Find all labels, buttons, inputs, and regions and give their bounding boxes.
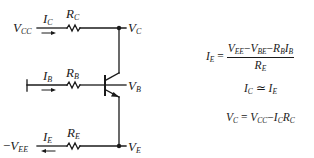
label-ib: IB [43, 69, 52, 86]
resistor-re [67, 143, 80, 149]
equation-ie: IE = VEE−VBE−RBIB RE [206, 42, 294, 73]
arrow-ie-head [41, 149, 46, 153]
equation-ic-approx: IC ≃ IE [244, 81, 277, 96]
node-vc [117, 26, 121, 30]
label-vee: −VEE [3, 139, 28, 156]
label-vc: VC [128, 21, 141, 38]
label-rb: RB [66, 66, 79, 83]
label-vb: VB [128, 79, 141, 96]
denominator: RE [227, 58, 294, 73]
label-ic: IC [43, 12, 53, 29]
node-ve [117, 144, 121, 148]
fraction: VEE−VBE−RBIB RE [227, 42, 294, 73]
arrow-ib-head [51, 88, 56, 92]
label-ve: VE [128, 140, 141, 157]
resistor-rc [67, 25, 80, 31]
arrow-ic-head [51, 31, 56, 35]
label-ie: IE [43, 130, 52, 147]
equation-vc: VC = VCC−ICRC [226, 111, 295, 125]
label-rc: RC [66, 7, 79, 24]
label-re: RE [67, 126, 80, 143]
transistor-collector [106, 73, 119, 80]
numerator: VEE−VBE−RBIB [227, 42, 294, 58]
label-vcc: VCC [13, 21, 32, 38]
